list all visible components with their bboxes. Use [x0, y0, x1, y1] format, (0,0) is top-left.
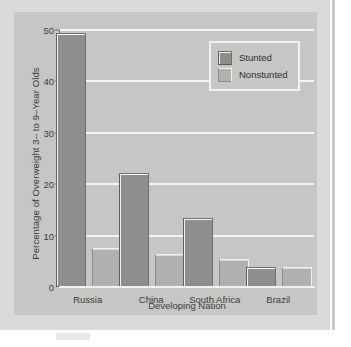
bar-highlight	[120, 174, 148, 175]
bar-nonstunted-russia	[92, 248, 122, 287]
bar-group	[124, 30, 188, 287]
bar-highlight	[220, 260, 248, 261]
caption-stub	[56, 333, 90, 340]
chart-panel: Percentage of Overweight 3– to 9–Year Ol…	[14, 12, 317, 315]
legend-item-stunted: Stunted	[218, 49, 288, 66]
bar-nonstunted-china	[155, 254, 185, 287]
bar-nonstunted-brazil	[282, 267, 312, 288]
bar-stunted-brazil	[246, 267, 276, 287]
bar-highlight	[156, 255, 184, 256]
bar-highlight	[283, 268, 311, 269]
legend-label-stunted: Stunted	[239, 52, 272, 63]
y-tick-label: 20	[43, 179, 54, 190]
y-tick-label: 0	[49, 282, 54, 293]
bar-highlight	[184, 219, 212, 220]
bar-stunted-china	[119, 173, 149, 287]
legend-label-nonstunted: Nonstunted	[239, 69, 288, 80]
chart-legend: Stunted Nonstunted	[209, 41, 300, 91]
y-tick-label: 40	[43, 76, 54, 87]
bar-group	[60, 30, 124, 287]
y-tick-label: 30	[43, 127, 54, 138]
bar-stunted-south-africa	[183, 218, 213, 287]
y-axis-title: Percentage of Overweight 3– to 9–Year Ol…	[30, 39, 41, 289]
bar-highlight	[247, 268, 275, 269]
x-axis-line	[59, 286, 315, 288]
y-tick-label: 10	[43, 230, 54, 241]
legend-item-nonstunted: Nonstunted	[218, 66, 288, 83]
bar-highlight	[57, 34, 85, 35]
legend-swatch-nonstunted	[218, 68, 232, 82]
legend-swatch-stunted	[218, 51, 232, 65]
page-bottom-strip	[0, 330, 351, 347]
y-tick-label: 50	[43, 25, 54, 36]
bar-nonstunted-south-africa	[219, 259, 249, 287]
figure-page: Percentage of Overweight 3– to 9–Year Ol…	[0, 0, 351, 347]
x-axis-title: Developing Nation	[60, 300, 314, 311]
y-tick-mark	[55, 30, 59, 31]
bar-stunted-russia	[56, 33, 86, 287]
bar-highlight	[93, 249, 121, 250]
page-gutter-shadow	[332, 0, 335, 347]
